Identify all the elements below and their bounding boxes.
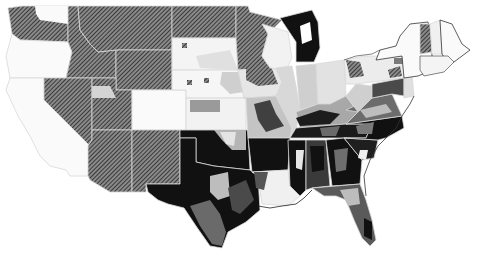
us-choropleth-map <box>0 0 479 259</box>
state-co <box>132 90 186 130</box>
state-wy <box>116 50 172 90</box>
state-ar <box>248 138 290 172</box>
state-az <box>88 130 132 192</box>
state-oh <box>316 60 346 104</box>
state-mt <box>78 6 172 52</box>
map-canvas <box>0 0 479 259</box>
state-nd <box>172 6 236 38</box>
state-nm <box>132 130 180 192</box>
state-in <box>296 64 318 110</box>
